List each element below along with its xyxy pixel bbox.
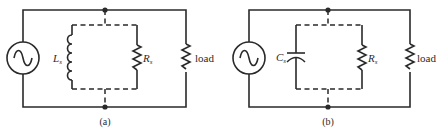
ac-source-icon-b	[233, 42, 265, 74]
load-label-b: load	[417, 52, 436, 64]
caption-a: (a)	[99, 116, 110, 128]
inductor-icon	[68, 35, 73, 80]
load-resistor-icon-b	[406, 44, 414, 69]
ac-source-icon-a	[7, 42, 39, 74]
load-label-a: load	[195, 52, 214, 64]
capacitor-label: Cs	[276, 51, 286, 65]
resistor-rs-icon-a	[133, 45, 141, 70]
resistor-rs-label-b: Rs	[367, 52, 378, 66]
resistor-rs-label-a: Rs	[142, 52, 153, 66]
circuit-a: Ls Rs load (a)	[7, 7, 214, 128]
outer-wire-b	[249, 10, 410, 107]
resistor-rs-icon-b	[358, 45, 366, 70]
inductor-label: Ls	[52, 52, 62, 66]
circuit-b: Cs Rs load (b)	[233, 7, 436, 128]
load-resistor-icon-a	[182, 44, 190, 69]
circuit-figure: Ls Rs load (a) Cs Rs	[0, 0, 439, 132]
caption-b: (b)	[322, 116, 334, 128]
